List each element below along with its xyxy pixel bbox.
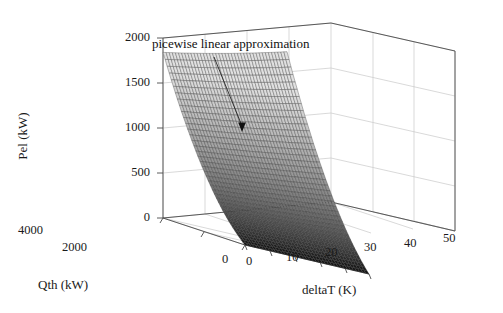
- x-tick-label-0: 0: [246, 254, 252, 269]
- x-tick-label-30: 30: [364, 240, 377, 255]
- y-axis-title: Qth (kW): [38, 277, 88, 293]
- x-tick-label-20: 20: [325, 245, 338, 260]
- z-tick-label-1500: 1500: [106, 75, 150, 90]
- x-tick-label-40: 40: [404, 236, 417, 251]
- z-axis-ticks: [157, 38, 163, 218]
- y-tick-label-0: 0: [222, 252, 228, 267]
- z-axis-title: Pel (kW): [15, 91, 31, 181]
- x-axis-title: deltaT (K): [302, 282, 356, 298]
- x-tick-label-10: 10: [286, 250, 299, 265]
- surface-mesh: [163, 52, 369, 274]
- z-tick-label-500: 500: [106, 165, 150, 180]
- z-tick-label-2000: 2000: [106, 30, 150, 45]
- y-tick-label-4000: 4000: [18, 223, 43, 238]
- z-tick-label-0: 0: [106, 210, 150, 225]
- x-tick-label-50: 50: [443, 231, 456, 246]
- z-tick-label-1000: 1000: [106, 120, 150, 135]
- y-tick-label-2000: 2000: [62, 240, 87, 255]
- annotation-label: picewise linear approximation: [152, 36, 309, 52]
- figure-3d-surface-plot: picewise linear approximation 2000 1500 …: [0, 0, 503, 313]
